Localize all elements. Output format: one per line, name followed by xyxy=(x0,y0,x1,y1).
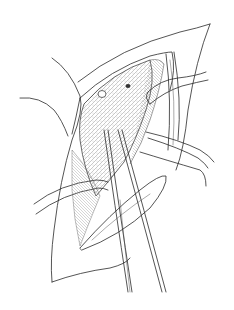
instrument-3 xyxy=(120,200,130,292)
skin-flap-bottom-edge xyxy=(52,258,130,282)
surgical-illustration xyxy=(0,0,234,310)
muscle-column-1 xyxy=(166,54,170,150)
muscle-column-2 xyxy=(174,52,179,140)
skin-flap-right-edge xyxy=(176,24,210,170)
skin-flap-left-upper xyxy=(20,98,68,136)
nodule-left xyxy=(98,91,106,98)
line-drawing xyxy=(0,0,234,310)
nodule-right xyxy=(126,84,131,88)
